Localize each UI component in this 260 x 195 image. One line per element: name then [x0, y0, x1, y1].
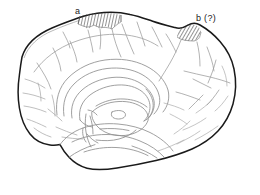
region-label-b: b (?): [196, 14, 216, 23]
brain-medial-diagram: [0, 0, 260, 195]
brain-figure: a b (?): [0, 0, 260, 195]
region-label-a: a: [75, 7, 80, 16]
